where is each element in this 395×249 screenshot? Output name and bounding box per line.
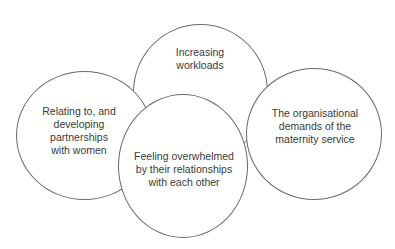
- label-feeling-overwhelmed: Feeling overwhelmed by their relationshi…: [128, 150, 240, 189]
- label-line: workloads: [150, 59, 250, 72]
- label-line: with each other: [128, 176, 240, 189]
- label-line: developing: [24, 118, 134, 131]
- label-line: demands of the: [260, 120, 370, 133]
- label-line: Relating to, and: [24, 105, 134, 118]
- label-line: by their relationships: [128, 163, 240, 176]
- label-line: with women: [24, 144, 134, 157]
- label-line: partnerships: [24, 131, 134, 144]
- diagram-canvas: Increasing workloads Relating to, and de…: [0, 0, 395, 249]
- label-relating-to-women: Relating to, and developing partnerships…: [24, 105, 134, 157]
- label-line: Increasing: [150, 46, 250, 59]
- label-organisational-demands: The organisational demands of the matern…: [260, 107, 370, 146]
- label-line: Feeling overwhelmed: [128, 150, 240, 163]
- label-increasing-workloads: Increasing workloads: [150, 46, 250, 72]
- label-line: The organisational: [260, 107, 370, 120]
- label-line: maternity service: [260, 133, 370, 146]
